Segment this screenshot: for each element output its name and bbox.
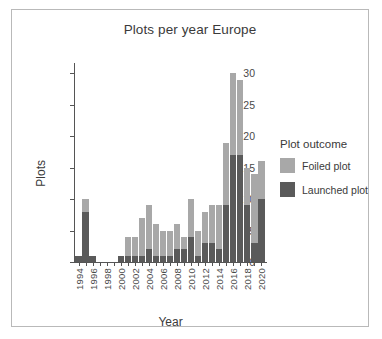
bar-segment-launched <box>188 237 194 262</box>
bar-stack[interactable] <box>251 174 257 262</box>
legend-swatch-foiled <box>280 158 295 173</box>
x-tick-mark <box>261 262 262 266</box>
legend: Plot outcome Foiled plotLaunched plot <box>280 138 380 206</box>
bar-segment-foiled <box>195 231 201 256</box>
bar-segment-foiled <box>167 231 173 256</box>
bar-stack[interactable] <box>118 256 124 262</box>
bar-segment-foiled <box>125 237 131 256</box>
bar-segment-launched <box>181 249 187 262</box>
x-tick-label: 2014 <box>214 268 225 290</box>
bar-segment-launched <box>146 249 152 262</box>
x-tick-label: 2004 <box>144 268 155 290</box>
bar-segment-foiled <box>82 199 88 212</box>
x-tick-label: 2002 <box>130 268 141 290</box>
bar-segment-foiled <box>223 143 229 206</box>
bar-segment-foiled <box>181 237 187 250</box>
bar-segment-launched <box>153 256 159 262</box>
bar-segment-launched <box>132 256 138 262</box>
bar-stack[interactable] <box>188 199 194 262</box>
x-tick-mark <box>79 262 80 266</box>
plot-area: 051015202530 199419961998200020022004200… <box>74 67 264 262</box>
x-tick-label: 1998 <box>102 268 113 290</box>
bar-segment-launched <box>167 256 173 262</box>
bar-stack[interactable] <box>82 199 88 262</box>
bar-segment-launched <box>75 256 81 262</box>
bar-segment-foiled <box>160 231 166 256</box>
bar-segment-launched <box>230 155 236 262</box>
x-tick-mark <box>114 262 115 266</box>
x-tick-label: 2000 <box>116 268 127 290</box>
bar-stack[interactable] <box>181 237 187 262</box>
bar-stack[interactable] <box>258 161 264 262</box>
bar-segment-launched <box>237 155 243 262</box>
x-tick-mark <box>121 262 122 266</box>
bar-segment-foiled <box>146 205 152 249</box>
x-tick-mark <box>212 262 213 266</box>
bar-segment-foiled <box>230 73 236 155</box>
bar-stack[interactable] <box>160 231 166 262</box>
bar-segment-foiled <box>237 80 243 155</box>
legend-item[interactable]: Foiled plot <box>280 158 380 173</box>
x-tick-mark <box>86 262 87 266</box>
x-tick-label: 2020 <box>256 268 267 290</box>
x-tick-mark <box>156 262 157 266</box>
bar-segment-launched <box>139 256 145 262</box>
bar-segment-launched <box>223 205 229 262</box>
bar-segment-foiled <box>188 199 194 237</box>
bar-stack[interactable] <box>75 256 81 262</box>
x-tick-mark <box>149 262 150 266</box>
x-tick-mark <box>142 262 143 266</box>
bar-stack[interactable] <box>146 205 152 262</box>
bar-segment-foiled <box>174 224 180 249</box>
bar-stack[interactable] <box>195 231 201 262</box>
x-tick-mark <box>191 262 192 266</box>
y-tick-mark <box>70 105 74 106</box>
bar-segment-launched <box>195 256 201 262</box>
x-tick-label: 2016 <box>228 268 239 290</box>
bar-stack[interactable] <box>167 231 173 262</box>
y-tick-mark <box>70 168 74 169</box>
x-tick-mark <box>170 262 171 266</box>
x-tick-mark <box>135 262 136 266</box>
bar-segment-launched <box>258 199 264 262</box>
bar-stack[interactable] <box>202 212 208 262</box>
bar-segment-launched <box>118 256 124 262</box>
bar-stack[interactable] <box>89 256 95 262</box>
bar-stack[interactable] <box>174 224 180 262</box>
x-tick-mark <box>177 262 178 266</box>
bar-stack[interactable] <box>244 168 250 262</box>
x-tick-mark <box>219 262 220 266</box>
bar-segment-foiled <box>153 224 159 255</box>
bar-stack[interactable] <box>216 205 222 262</box>
bar-segment-launched <box>160 256 166 262</box>
bar-stack[interactable] <box>209 205 215 262</box>
bar-segment-launched <box>174 249 180 262</box>
legend-items: Foiled plotLaunched plot <box>280 158 380 197</box>
bar-stack[interactable] <box>153 224 159 262</box>
bar-stack[interactable] <box>132 237 138 262</box>
x-axis-label: Year <box>74 315 267 329</box>
bar-segment-foiled <box>139 218 145 256</box>
x-tick-label: 2012 <box>200 268 211 290</box>
x-tick-label: 2010 <box>186 268 197 290</box>
legend-item[interactable]: Launched plot <box>280 182 380 197</box>
bar-segment-foiled <box>244 168 250 206</box>
bar-stack[interactable] <box>125 237 131 262</box>
bar-stack[interactable] <box>139 218 145 262</box>
x-tick-mark <box>100 262 101 266</box>
bar-segment-foiled <box>216 205 222 249</box>
bar-segment-launched <box>82 212 88 262</box>
x-tick-label: 2006 <box>158 268 169 290</box>
y-tick-mark <box>70 231 74 232</box>
x-tick-label: 2008 <box>172 268 183 290</box>
bar-segment-foiled <box>132 237 138 256</box>
bar-stack[interactable] <box>230 73 236 262</box>
chart-title: Plots per year Europe <box>12 22 368 37</box>
legend-label: Foiled plot <box>302 160 350 172</box>
x-tick-mark <box>254 262 255 266</box>
x-tick-mark <box>128 262 129 266</box>
x-tick-label: 1994 <box>74 268 85 290</box>
bar-stack[interactable] <box>223 142 229 262</box>
bar-stack[interactable] <box>237 80 243 262</box>
x-tick-mark <box>198 262 199 266</box>
